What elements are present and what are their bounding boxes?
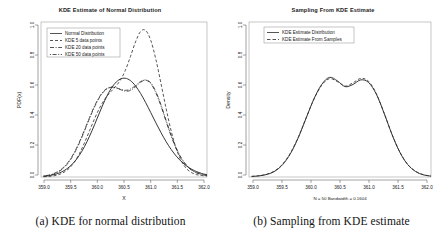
panel-b-xtick-1: 359.5 (276, 185, 288, 190)
panel-a-ytick-1: 0.2 (30, 141, 35, 148)
series-normal-distribution (44, 78, 207, 176)
panel-a-xtick-3: 360.5 (118, 185, 130, 190)
panel-b-ytick-3: 0.6 (238, 81, 243, 88)
panel-a-xtick-5: 361.5 (172, 185, 184, 190)
panel-a-xtick-0: 359.0 (38, 185, 50, 190)
panel-b-curves (252, 77, 431, 176)
panel-b-y-ticks: 0.0 0.2 0.4 0.6 0.8 1.0 (238, 21, 246, 178)
panel-b-xtick-4: 361.0 (363, 185, 375, 190)
caption-b: (b) Sampling from KDE estimate (221, 207, 442, 242)
panel-b-ytick-1: 0.2 (238, 141, 243, 148)
series-kde-50-data-points (44, 80, 207, 176)
panel-b-ytick-0: 0.0 (238, 171, 243, 178)
panel-b-ytick-4: 0.8 (238, 51, 243, 58)
figure-panels: KDE Estimate of Normal Distribution 0.0 … (0, 0, 443, 207)
panel-b-legend: KDE Estimate Distribution KDE Estimate F… (264, 27, 354, 43)
panel-b-x-ticks: 359.0 359.5 360.0 360.5 361.0 361.5 362.… (247, 180, 433, 190)
panel-b-xtick-6: 362.0 (421, 185, 433, 190)
series-kde-estimate-distribution (252, 77, 431, 176)
panel-b-legend-label-0: KDE Estimate Distribution (282, 30, 335, 35)
panel-a-legend-label-2: KDE 20 data points (65, 45, 105, 50)
panel-b-y-axis-label: Density (225, 91, 231, 109)
panel-b-subtitle: N = 50 Bandwidth = 0.1604 (313, 196, 367, 201)
panel-b-xtick-0: 359.0 (247, 185, 259, 190)
panel-b-svg: Sampling From KDE Estimate 0.0 0.2 0.4 0… (221, 0, 442, 207)
panel-a-title: KDE Estimate of Normal Distribution (59, 7, 162, 13)
panel-b-plot-frame (249, 22, 431, 177)
panel-a-ytick-4: 0.8 (30, 51, 35, 58)
panel-b-xtick-5: 361.5 (392, 185, 404, 190)
panel-b-ytick-5: 1.0 (238, 21, 243, 28)
panel-a-x-ticks: 359.0 359.5 360.0 360.5 361.0 361.5 362.… (38, 180, 210, 190)
panel-a-legend-label-1: KDE 5 data points (65, 38, 103, 43)
panel-a-ytick-3: 0.6 (30, 81, 35, 88)
panel-b-sampling-kde: Sampling From KDE Estimate 0.0 0.2 0.4 0… (221, 0, 442, 207)
panel-a-x-axis-label: X (122, 195, 126, 201)
panel-b-xtick-2: 360.0 (305, 185, 317, 190)
panel-a-xtick-4: 361.0 (145, 185, 157, 190)
panel-a-legend-label-3: KDE 50 data points (65, 52, 105, 57)
panel-b-xtick-3: 360.5 (334, 185, 346, 190)
panel-b-legend-label-1: KDE Estimate From Samples (282, 37, 342, 42)
panel-a-ytick-5: 1.0 (30, 21, 35, 28)
panel-a-y-ticks: 0.0 0.2 0.4 0.6 0.8 1.0 (30, 21, 38, 178)
panel-a-legend: Normal Distribution KDE 5 data points KD… (47, 28, 120, 57)
series-kde-estimate-from-samples (252, 78, 431, 176)
panel-a-xtick-1: 359.5 (65, 185, 77, 190)
panel-a-xtick-6: 362.0 (198, 185, 210, 190)
panel-a-ytick-0: 0.0 (30, 171, 35, 178)
panel-a-y-axis-label: PDF(x) (16, 92, 22, 109)
panel-a-kde-normal: KDE Estimate of Normal Distribution 0.0 … (0, 0, 221, 207)
panel-b-ytick-2: 0.4 (238, 111, 243, 118)
panel-a-svg: KDE Estimate of Normal Distribution 0.0 … (0, 0, 221, 207)
caption-a: (a) KDE for normal distribution (0, 207, 221, 242)
panel-a-ytick-2: 0.4 (30, 111, 35, 118)
panel-a-xtick-2: 360.0 (92, 185, 104, 190)
panel-b-title: Sampling From KDE Estimate (292, 7, 375, 13)
figure-captions: (a) KDE for normal distribution (b) Samp… (0, 207, 443, 242)
panel-a-legend-label-0: Normal Distribution (65, 31, 105, 36)
